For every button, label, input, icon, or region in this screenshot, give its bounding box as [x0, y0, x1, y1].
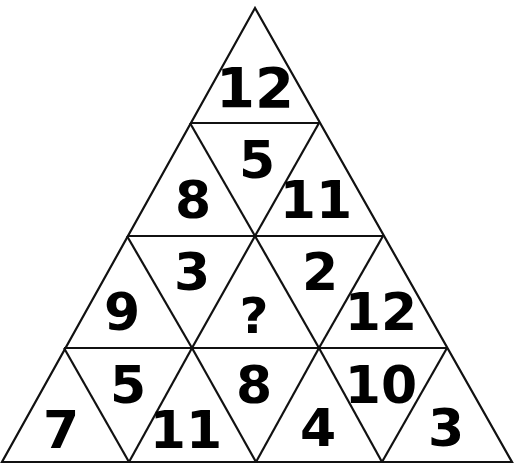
cell-r4-up4: 3 [428, 398, 464, 458]
cell-r4-up3: 4 [300, 398, 336, 458]
cell-r3-up3: 12 [345, 282, 417, 342]
cell-r4-down1: 5 [110, 355, 146, 415]
cell-r4-up1: 7 [43, 400, 79, 460]
cell-numbers: 12 8 5 11 9 3 ? 2 12 7 5 11 8 4 10 3 [43, 55, 464, 460]
cell-r2-up1: 8 [175, 170, 211, 230]
cell-r2-down1: 5 [239, 130, 275, 190]
cell-r2-up2: 11 [280, 170, 352, 230]
cell-r4-up2: 11 [150, 400, 222, 460]
cell-r3-down2: 2 [302, 242, 338, 302]
cell-r1-up1: 12 [216, 55, 294, 120]
cell-r4-down2: 8 [236, 355, 272, 415]
cell-r3-up1: 9 [104, 282, 140, 342]
cell-unknown: ? [239, 287, 268, 345]
cell-r3-down1: 3 [174, 242, 210, 302]
triangle-puzzle: 12 8 5 11 9 3 ? 2 12 7 5 11 8 4 10 3 [0, 0, 516, 468]
cell-r4-down3: 10 [345, 355, 417, 415]
